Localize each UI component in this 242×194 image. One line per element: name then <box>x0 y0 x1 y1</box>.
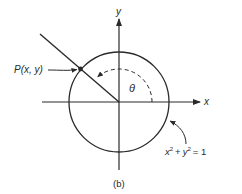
point-label-pointer <box>48 70 77 71</box>
point-label: P(x, y) <box>14 64 43 75</box>
angle-label: θ <box>129 82 135 94</box>
equation-pointer <box>170 121 186 144</box>
circle-equation: x2+y2= 1 <box>164 146 206 157</box>
point-p <box>78 67 83 72</box>
figure-caption: (b) <box>113 178 125 189</box>
y-axis-label: y <box>115 6 122 17</box>
unit-circle-diagram: y x P(x, y) θ x2+y2= 1 (b) <box>0 0 242 194</box>
x-axis-label: x <box>203 96 210 107</box>
angle-arc <box>98 69 153 102</box>
